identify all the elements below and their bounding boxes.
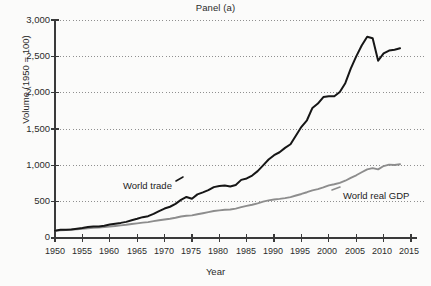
chart-figure: Panel (a) Volume (1950 = 100) Year 3,000… <box>0 0 431 286</box>
series-label-world-real-gdp: World real GDP <box>343 190 409 201</box>
y-tick-label-2500: 2,500 <box>4 51 50 61</box>
y-tick-label-1500: 1,500 <box>4 124 50 134</box>
y-tick-label-500: 500 <box>4 196 50 206</box>
y-tick-label-2000: 2,000 <box>4 87 50 97</box>
y-tick-label-3000: 3,000 <box>4 15 50 25</box>
y-tick-label-0: 0 <box>4 232 50 242</box>
x-tick-label-2015: 2015 <box>389 246 429 256</box>
series-label-world-trade: World trade <box>123 180 172 191</box>
plot-area <box>0 0 431 286</box>
y-tick-label-1000: 1,000 <box>4 160 50 170</box>
